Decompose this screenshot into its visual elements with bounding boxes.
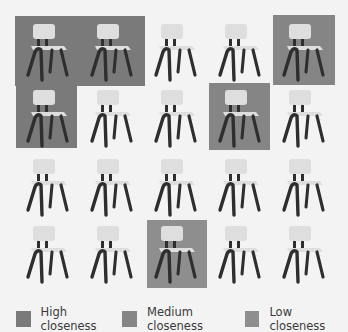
- chair-icon: [152, 88, 200, 148]
- chair-icon: [88, 157, 136, 217]
- legend-swatch-medium: [122, 311, 137, 327]
- chair-icon: [280, 224, 328, 284]
- chair-icon: [216, 88, 264, 148]
- chair-icon: [152, 157, 200, 217]
- legend-label-medium: Medium closeness: [147, 305, 233, 332]
- chair-icon: [152, 224, 200, 284]
- legend-label-high: High closeness: [41, 305, 111, 332]
- chair-icon: [24, 224, 72, 284]
- chair-icon: [216, 22, 264, 82]
- legend-item-low: Low closeness: [245, 305, 336, 332]
- chair-icon: [152, 22, 200, 82]
- legend: High closeness Medium closeness Low clos…: [16, 310, 348, 328]
- chair-icon: [216, 157, 264, 217]
- chair-icon: [280, 157, 328, 217]
- chair-icon: [88, 22, 136, 82]
- legend-item-medium: Medium closeness: [122, 305, 232, 332]
- chair-icon: [24, 88, 72, 148]
- chair-icon: [216, 224, 264, 284]
- legend-label-low: Low closeness: [269, 305, 336, 332]
- chair-icon: [24, 22, 72, 82]
- chair-icon: [88, 88, 136, 148]
- legend-swatch-low: [245, 311, 260, 327]
- chair-icon: [88, 224, 136, 284]
- chair-icon: [280, 88, 328, 148]
- chair-icon: [280, 22, 328, 82]
- chair-icon: [24, 157, 72, 217]
- legend-swatch-high: [16, 311, 31, 327]
- legend-item-high: High closeness: [16, 305, 110, 332]
